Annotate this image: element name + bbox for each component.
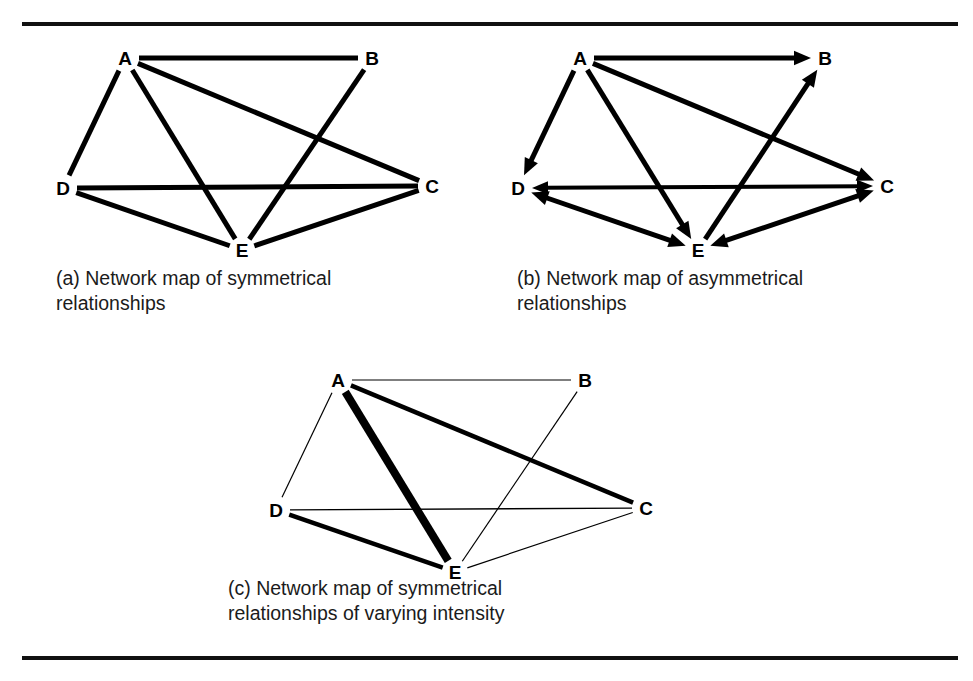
edge-E-C	[467, 512, 632, 567]
edge-D-C	[532, 180, 873, 195]
edge-D-E	[531, 191, 685, 247]
node-label-a-E: E	[236, 241, 249, 260]
edge-A-B	[594, 51, 811, 66]
edge-A-D	[69, 71, 119, 176]
node-label-a-A: A	[118, 49, 132, 68]
node-label-a-B: B	[365, 49, 379, 68]
node-label-b-C: C	[880, 177, 894, 196]
edge-A-C	[138, 63, 419, 180]
node-label-b-D: D	[511, 179, 525, 198]
edge-D-E	[76, 193, 229, 246]
edge-line	[529, 71, 574, 166]
node-label-c-A: A	[331, 371, 345, 390]
edge-D-E	[289, 515, 442, 568]
node-label-c-B: B	[578, 371, 592, 390]
top-horizontal-rule	[22, 22, 958, 26]
figure-root: A B C D E (a) Network map of symmetrical…	[0, 0, 973, 681]
edge-line	[593, 63, 864, 176]
edge-D-C	[290, 508, 632, 510]
edge-line	[290, 508, 632, 510]
arrowhead-icon	[710, 234, 728, 248]
panel-a-symmetrical-network: A B C D E (a) Network map of symmetrical…	[18, 36, 478, 296]
arrowhead-icon	[531, 191, 549, 205]
edge-line	[282, 393, 332, 498]
edge-A-C	[593, 63, 874, 180]
edge-line	[77, 186, 418, 188]
bottom-horizontal-rule	[22, 656, 958, 660]
edge-D-C	[77, 186, 418, 188]
network-graph-c	[210, 358, 680, 598]
caption-panel-c: (c) Network map of symmetrical relations…	[228, 576, 678, 626]
arrowhead-icon	[794, 51, 811, 66]
edge-A-D	[282, 393, 332, 498]
arrowhead-icon	[855, 189, 873, 203]
panel-c-varying-intensity-network: A B C D E (c) Network map of symmetrical…	[210, 358, 680, 648]
edge-line	[467, 512, 632, 567]
node-label-b-E: E	[692, 241, 705, 260]
arrowhead-icon	[667, 233, 685, 247]
panel-b-asymmetrical-network: A B C D E (b) Network map of asymmetrica…	[495, 36, 960, 296]
edge-line	[69, 71, 119, 176]
edge-line	[542, 186, 863, 188]
node-label-b-A: A	[573, 49, 587, 68]
edge-B-E	[462, 392, 577, 562]
network-graph-b	[495, 36, 960, 281]
edge-line	[76, 193, 229, 246]
edge-line	[462, 392, 577, 562]
edge-A-C	[351, 385, 633, 502]
edge-A-D	[524, 71, 574, 176]
node-label-c-D: D	[269, 501, 283, 520]
node-label-a-C: C	[425, 177, 439, 196]
caption-panel-b: (b) Network map of asymmetrical relation…	[517, 266, 947, 316]
edge-line	[138, 63, 419, 180]
caption-panel-a: (a) Network map of symmetrical relations…	[56, 266, 486, 316]
edge-line	[351, 385, 633, 502]
edge-line	[541, 196, 676, 242]
node-label-c-C: C	[639, 499, 653, 518]
node-label-a-D: D	[56, 179, 70, 198]
edge-line	[720, 194, 863, 243]
edge-line	[289, 515, 442, 568]
node-label-b-B: B	[818, 49, 832, 68]
